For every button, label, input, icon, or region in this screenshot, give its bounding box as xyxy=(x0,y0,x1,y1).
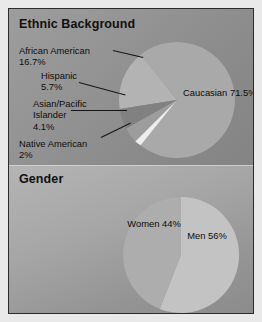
label-african-american-value: 16.7% xyxy=(19,56,90,67)
label-women-value: 44% xyxy=(162,218,181,229)
label-men-name: Men xyxy=(187,230,205,241)
label-women-name: Women xyxy=(127,218,159,229)
label-native-american: Native American 2% xyxy=(19,138,87,161)
label-asian-pacific-islander: Asian/Pacific Islander 4.1% xyxy=(33,98,87,132)
label-native-american-value: 2% xyxy=(19,149,87,160)
label-caucasian-name: Caucasian xyxy=(183,87,227,98)
label-asian-pacific-islander-name-1: Asian/Pacific xyxy=(33,98,87,109)
ethnic-panel-title: Ethnic Background xyxy=(19,17,135,31)
label-men-value: 56% xyxy=(208,230,227,241)
label-asian-pacific-islander-name-2: Islander xyxy=(33,109,87,120)
label-african-american-name: African American xyxy=(19,45,90,56)
gender-pie-chart xyxy=(117,191,245,313)
label-african-american: African American 16.7% xyxy=(19,45,90,68)
gender-panel: Gender Women 44% Men 56% xyxy=(9,166,253,313)
label-women: Women 44% xyxy=(125,218,183,230)
label-hispanic-name: Hispanic xyxy=(41,70,77,81)
label-hispanic: Hispanic 5.7% xyxy=(41,70,77,93)
label-asian-pacific-islander-value: 4.1% xyxy=(33,121,87,132)
leader-line-asian-pacific-islander xyxy=(71,110,127,111)
label-native-american-name: Native American xyxy=(19,138,87,149)
label-caucasian-value: 71.5% xyxy=(230,87,253,98)
figure-frame: Ethnic Background Caucasian 71.5% xyxy=(8,8,254,314)
label-men: Men 56% xyxy=(185,230,229,242)
label-caucasian: Caucasian 71.5% xyxy=(183,87,253,99)
label-hispanic-value: 5.7% xyxy=(41,81,77,92)
ethnic-background-panel: Ethnic Background Caucasian 71.5% xyxy=(9,9,253,165)
gender-panel-title: Gender xyxy=(19,172,63,186)
